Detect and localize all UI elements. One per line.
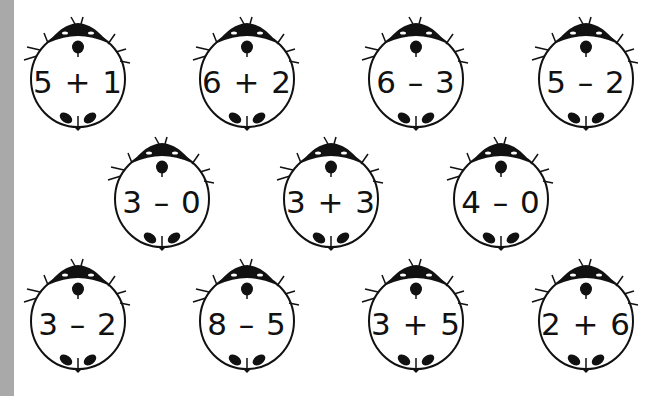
math-expression: 3 – 0 bbox=[114, 184, 210, 220]
ladybug-problem-3: 6 – 3 bbox=[360, 16, 470, 134]
math-expression: 2 + 6 bbox=[538, 306, 634, 342]
ladybug-problem-7: 4 – 0 bbox=[445, 136, 555, 254]
left-gray-strip bbox=[0, 0, 14, 396]
math-expression: 6 – 3 bbox=[368, 64, 464, 100]
ladybug-problem-9: 8 – 5 bbox=[191, 258, 301, 376]
ladybug-problem-2: 6 + 2 bbox=[191, 16, 301, 134]
math-expression: 3 + 5 bbox=[368, 306, 464, 342]
ladybug-problem-8: 3 – 2 bbox=[22, 258, 132, 376]
math-expression: 5 – 2 bbox=[538, 64, 634, 100]
ladybug-problem-6: 3 + 3 bbox=[275, 136, 385, 254]
math-expression: 3 – 2 bbox=[30, 306, 126, 342]
ladybug-problem-10: 3 + 5 bbox=[360, 258, 470, 376]
ladybug-problem-1: 5 + 1 bbox=[22, 16, 132, 134]
ladybug-problem-5: 3 – 0 bbox=[106, 136, 216, 254]
math-expression: 5 + 1 bbox=[30, 64, 126, 100]
math-expression: 8 – 5 bbox=[199, 306, 295, 342]
math-expression: 4 – 0 bbox=[453, 184, 549, 220]
math-expression: 6 + 2 bbox=[199, 64, 295, 100]
ladybug-problem-4: 5 – 2 bbox=[530, 16, 640, 134]
math-expression: 3 + 3 bbox=[283, 184, 379, 220]
ladybug-problem-11: 2 + 6 bbox=[530, 258, 640, 376]
